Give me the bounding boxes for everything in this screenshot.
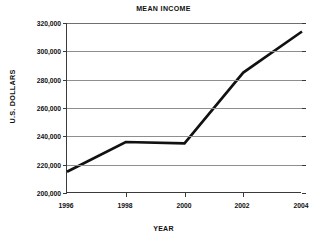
gridline bbox=[67, 23, 302, 24]
x-axis-tick-label: 1998 bbox=[107, 201, 143, 210]
gridline bbox=[67, 51, 302, 52]
y-axis-tick bbox=[302, 165, 306, 166]
y-axis-tick bbox=[302, 193, 306, 194]
y-axis-tick bbox=[302, 51, 306, 52]
x-axis-tick-label: 1996 bbox=[48, 201, 84, 210]
y-axis-tick-label: 200,000 bbox=[37, 189, 61, 198]
x-axis-tick bbox=[243, 193, 244, 197]
y-axis-title: U.S. DOLLARS bbox=[8, 52, 17, 142]
y-axis-tick bbox=[302, 23, 306, 24]
chart-container: MEAN INCOME 320,000300,000280,000260,000… bbox=[0, 0, 327, 243]
y-axis-tick bbox=[63, 80, 67, 81]
y-axis-tick bbox=[63, 108, 67, 109]
y-axis-tick-label: 260,000 bbox=[37, 104, 61, 113]
y-axis-tick-label: 300,000 bbox=[37, 47, 61, 56]
gridline bbox=[67, 108, 302, 109]
y-axis-tick bbox=[302, 108, 306, 109]
x-axis-tick bbox=[126, 193, 127, 197]
y-axis-tick bbox=[63, 193, 67, 194]
x-axis-tick-label: 2004 bbox=[283, 201, 319, 210]
gridline bbox=[67, 165, 302, 166]
plot-area bbox=[66, 23, 301, 193]
x-axis-title: YEAR bbox=[20, 224, 308, 233]
y-axis-tick-label: 240,000 bbox=[37, 132, 61, 141]
y-axis-tick bbox=[63, 51, 67, 52]
y-axis-tick-label: 220,000 bbox=[37, 161, 61, 170]
y-axis-tick bbox=[63, 23, 67, 24]
gridline bbox=[67, 80, 302, 81]
x-axis-tick-label: 2000 bbox=[166, 201, 202, 210]
x-axis-tick bbox=[185, 193, 186, 197]
y-axis-tick bbox=[63, 165, 67, 166]
y-axis-tick bbox=[302, 80, 306, 81]
chart-title: MEAN INCOME bbox=[20, 4, 308, 13]
y-axis-tick-label: 280,000 bbox=[37, 76, 61, 85]
y-axis-tick bbox=[302, 136, 306, 137]
y-axis-tick bbox=[63, 136, 67, 137]
y-axis-tick-label: 320,000 bbox=[37, 19, 61, 28]
gridline bbox=[67, 136, 302, 137]
x-axis-tick-label: 2002 bbox=[224, 201, 260, 210]
